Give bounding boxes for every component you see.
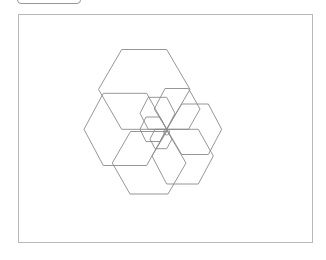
hexagon-drawing (0, 0, 326, 260)
hex-bottom (112, 132, 186, 195)
hex-top (99, 50, 191, 130)
hex-upper-middle (154, 89, 200, 130)
